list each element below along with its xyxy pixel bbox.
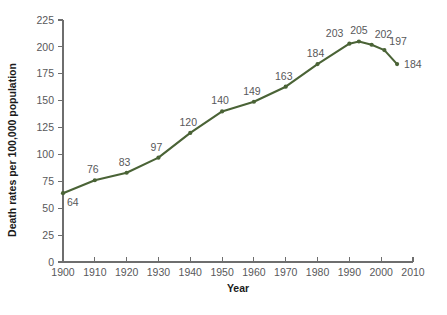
series-point xyxy=(93,178,97,182)
x-tick-label: 1940 xyxy=(179,266,203,278)
series-point-label: 184 xyxy=(307,47,325,59)
series-point xyxy=(284,85,288,89)
x-tick-label: 1970 xyxy=(274,266,298,278)
x-axis-ticks xyxy=(63,257,413,262)
series-point xyxy=(125,171,129,175)
x-tick-label: 1900 xyxy=(51,266,75,278)
y-tick-label: 50 xyxy=(42,202,54,214)
series-points xyxy=(61,39,399,195)
x-axis-tick-labels: 1900191019201930194019501960197019801990… xyxy=(51,266,425,278)
x-tick-label: 1930 xyxy=(147,266,171,278)
x-tick-label: 1950 xyxy=(210,266,234,278)
x-tick-label: 1980 xyxy=(306,266,330,278)
series-point xyxy=(395,62,399,66)
y-axis: 0255075100125150175200225 xyxy=(36,14,63,268)
x-tick-label: 1910 xyxy=(83,266,107,278)
series-point xyxy=(315,62,319,66)
x-tick-label: 2000 xyxy=(370,266,394,278)
series-point-label: 205 xyxy=(350,24,368,36)
series-point xyxy=(61,191,65,195)
series-point xyxy=(156,156,160,160)
series-point-label: 184 xyxy=(404,58,422,70)
series-point-label: 163 xyxy=(275,70,293,82)
x-tick-label: 1990 xyxy=(338,266,362,278)
series-point-label: 97 xyxy=(151,141,163,153)
y-tick-label: 150 xyxy=(36,94,54,106)
series-point xyxy=(370,43,374,47)
chart-canvas: 0255075100125150175200225 19001910192019… xyxy=(0,0,447,315)
y-tick-label: 25 xyxy=(42,229,54,241)
series-point xyxy=(220,109,224,113)
series-line-death-rates xyxy=(63,42,397,194)
y-tick-label: 175 xyxy=(36,67,54,79)
series-point-label: 64 xyxy=(67,196,79,208)
line-chart: 0255075100125150175200225 19001910192019… xyxy=(0,0,447,315)
series-point xyxy=(357,39,361,43)
y-tick-label: 100 xyxy=(36,148,54,160)
y-tick-label: 200 xyxy=(36,41,54,53)
series-point-label: 197 xyxy=(389,35,407,47)
series-point-label: 76 xyxy=(87,163,99,175)
series-point xyxy=(382,48,386,52)
x-tick-label: 1960 xyxy=(242,266,266,278)
series-point xyxy=(252,100,256,104)
x-axis: 1900191019201930194019501960197019801990… xyxy=(51,257,425,278)
y-tick-label: 225 xyxy=(36,14,54,26)
y-axis-tick-labels: 0255075100125150175200225 xyxy=(36,14,54,268)
x-tick-label: 1920 xyxy=(115,266,139,278)
series-point-label: 149 xyxy=(243,85,261,97)
x-tick-label: 2010 xyxy=(401,266,425,278)
series-point-label: 203 xyxy=(326,27,344,39)
data-series: 64768397120140149163184203205202197184 xyxy=(61,24,422,209)
y-axis-title: Death rates per 100,000 population xyxy=(6,63,18,237)
series-point xyxy=(188,131,192,135)
y-tick-label: 75 xyxy=(42,175,54,187)
x-axis-title: Year xyxy=(227,282,249,294)
series-point-labels: 64768397120140149163184203205202197184 xyxy=(67,24,422,209)
y-tick-label: 125 xyxy=(36,121,54,133)
series-point-label: 140 xyxy=(211,94,229,106)
series-point xyxy=(347,42,351,46)
y-axis-ticks xyxy=(58,20,63,262)
series-point-label: 120 xyxy=(180,116,198,128)
series-point-label: 83 xyxy=(119,156,131,168)
